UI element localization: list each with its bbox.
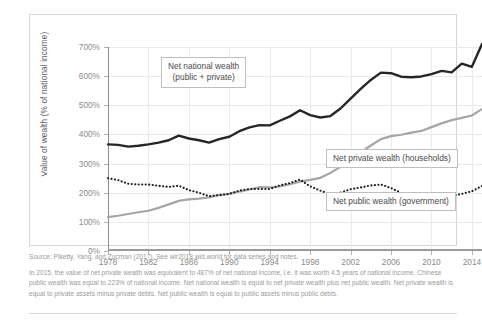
callout-line-2: (public + private) [168, 72, 239, 83]
x-tick-label: 2014 [463, 257, 481, 267]
callout-line-1: Net national wealth [168, 61, 239, 72]
x-tick-mark [472, 251, 473, 255]
footnote-block: Source: Piketty, Yang, and Zucman (2017)… [29, 252, 459, 300]
y-tick-label: 300% [66, 159, 100, 169]
chart-frame: Value of wealth (% of national income) 0… [29, 14, 457, 246]
y-tick-label: 700% [66, 42, 100, 52]
y-tick-label: 200% [66, 188, 100, 198]
callout-net-public-wealth: Net public wealth (government) [326, 192, 456, 211]
note-line: In 2015, the value of net private wealth… [29, 268, 459, 300]
y-tick-label: 600% [66, 71, 100, 81]
y-tick-label: 400% [66, 129, 100, 139]
y-tick-label: 100% [66, 217, 100, 227]
y-axis-title: Value of wealth (% of national income) [39, 4, 49, 204]
callout-net-private-wealth: Net private wealth (households) [326, 149, 458, 168]
y-tick-label: 500% [66, 100, 100, 110]
callout-line-1: Net public wealth (government) [333, 196, 449, 207]
callout-net-national-wealth: Net national wealth (public + private) [161, 57, 246, 88]
bottom-divider [29, 313, 457, 314]
source-line: Source: Piketty, Yang, and Zucman (2017)… [29, 252, 459, 263]
callout-line-1: Net private wealth (households) [333, 153, 451, 164]
